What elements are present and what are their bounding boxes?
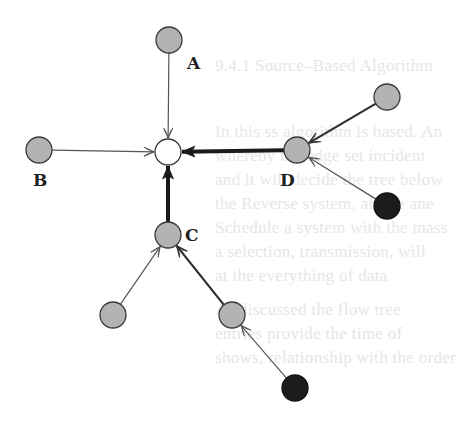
- node-c-in-right: [219, 302, 245, 328]
- edge-D-to-center: [182, 150, 284, 152]
- node-d-in-gray: [374, 84, 400, 110]
- nodes-layer: [26, 27, 400, 401]
- node-label-a: A: [186, 53, 201, 73]
- edge-D_in_black-to-D: [309, 157, 376, 199]
- node-d: [284, 137, 310, 163]
- node-label-d: D: [280, 170, 295, 190]
- node-a: [156, 27, 182, 53]
- edge-C_in_right-to-C: [177, 246, 224, 305]
- node-center: [155, 139, 181, 165]
- edges-layer: [52, 53, 376, 378]
- node-c-in-left: [100, 302, 126, 328]
- node-b: [26, 137, 52, 163]
- node-label-b: B: [33, 170, 47, 190]
- edge-A-to-center: [168, 53, 169, 138]
- edge-bottom_black-to-C_in_right: [241, 326, 286, 379]
- node-d-in-black: [374, 193, 400, 219]
- node-bottom-black: [282, 375, 308, 401]
- edge-B-to-center: [52, 150, 154, 152]
- edge-D_in_gray-to-D: [309, 104, 376, 143]
- node-c: [155, 222, 181, 248]
- node-label-c: C: [185, 225, 199, 245]
- edge-C_in_left-to-C: [120, 247, 160, 305]
